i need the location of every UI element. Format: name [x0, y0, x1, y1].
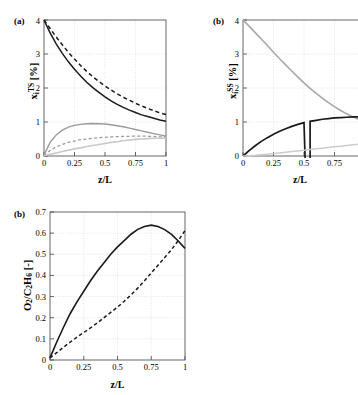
panel-a-xtick-2: 0.5 — [100, 158, 111, 168]
panel-c-xtick-4: 1 — [183, 362, 187, 372]
subplot-b: (b) xiSS [%] — [178, 0, 358, 198]
panel-b-curve-2 — [243, 117, 358, 321]
panel-c-ytick-6: 0.6 — [35, 228, 46, 238]
panel-b-curve-3 — [243, 143, 358, 156]
panel-c-series — [50, 225, 185, 358]
panel-c-ytick-5: 0.5 — [35, 249, 46, 259]
panel-c-xtick-1: 0.25 — [76, 362, 91, 372]
panel-b-xtick-1: 0.25 — [266, 158, 281, 168]
panel-b-y-tick-labels: 0 1 2 3 4 — [235, 16, 240, 161]
panel-b-xtick-3: 0.75 — [327, 158, 342, 168]
panel-c-plot: 0 0.25 0.5 0.75 1 0 0.1 0.2 0.3 0.4 0.5 … — [0, 196, 225, 395]
panel-a-xtick-3: 0.75 — [128, 158, 143, 168]
panel-b-ytick-3: 3 — [235, 49, 239, 59]
panel-b-plot: 0 0.25 0.5 0.75 0 1 2 3 4 z/L — [178, 0, 358, 198]
panel-b-ytick-2: 2 — [235, 83, 239, 93]
panel-c-y-tick-labels: 0 0.1 0.2 0.3 0.4 0.5 0.6 0.7 — [35, 207, 46, 365]
panel-a-ytick-0: 0 — [36, 151, 40, 161]
panel-a-x-tick-labels: 0 0.25 0.5 0.75 1 — [42, 158, 168, 168]
panel-c-gridlines — [50, 212, 185, 360]
subplot-c: (b) O2/C2H6 [-] — [0, 196, 225, 395]
panel-b-x-axis-label: z/L — [293, 174, 307, 185]
panel-b-xtick-0: 0 — [241, 158, 245, 168]
panel-c-xtick-0: 0 — [48, 362, 52, 372]
panel-b-xtick-2: 0.5 — [299, 158, 310, 168]
panel-b-ytick-4: 4 — [235, 16, 240, 26]
panel-a-xtick-1: 0.25 — [67, 158, 82, 168]
panel-c-ytick-0: 0 — [42, 355, 46, 365]
panel-a-gridlines — [44, 20, 166, 156]
panel-a-plot: 0 0.25 0.5 0.75 1 0 1 2 3 4 z/L — [0, 0, 180, 198]
panel-b-gridlines — [243, 20, 358, 156]
panel-c-x-tick-labels: 0 0.25 0.5 0.75 1 — [48, 362, 187, 372]
panel-b-ytick-1: 1 — [235, 117, 239, 127]
panel-c-ytick-7: 0.7 — [35, 207, 46, 217]
panel-c-ytick-3: 0.3 — [35, 292, 46, 302]
panel-c-curve-1 — [50, 225, 185, 358]
panel-a-xtick-0: 0 — [42, 158, 46, 168]
panel-b-x-tick-labels: 0 0.25 0.5 0.75 — [241, 158, 342, 168]
panel-a-y-tick-labels: 0 1 2 3 4 — [36, 16, 41, 161]
subplot-a: (a) xiTS [%] — [0, 0, 180, 198]
panel-a-ytick-3: 3 — [36, 49, 40, 59]
panel-c-x-axis-label: z/L — [111, 379, 125, 390]
panel-c-ytick-2: 0.2 — [35, 313, 46, 323]
figure-panel-group: (a) xiTS [%] — [0, 0, 358, 395]
panel-a-ytick-4: 4 — [36, 16, 41, 26]
panel-a-ytick-2: 2 — [36, 83, 40, 93]
panel-c-xtick-3: 0.75 — [144, 362, 159, 372]
panel-b-curve-1 — [243, 20, 358, 122]
panel-a-x-axis-label: z/L — [98, 174, 112, 185]
panel-a-ytick-1: 1 — [36, 117, 40, 127]
panel-c-ytick-4: 0.4 — [35, 270, 46, 280]
panel-c-xtick-2: 0.5 — [112, 362, 123, 372]
panel-b-series — [243, 20, 358, 321]
panel-b-ytick-0: 0 — [235, 151, 239, 161]
panel-a-xtick-4: 1 — [164, 158, 168, 168]
panel-c-ytick-1: 0.1 — [35, 334, 46, 344]
